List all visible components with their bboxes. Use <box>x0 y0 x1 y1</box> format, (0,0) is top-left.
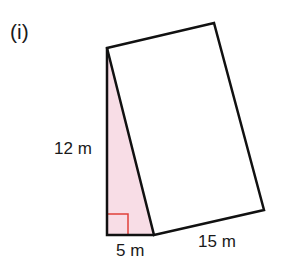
geometry-figure <box>0 0 286 273</box>
height-label: 12 m <box>54 139 92 159</box>
length-label: 15 m <box>198 232 236 252</box>
base-label: 5 m <box>116 241 144 261</box>
